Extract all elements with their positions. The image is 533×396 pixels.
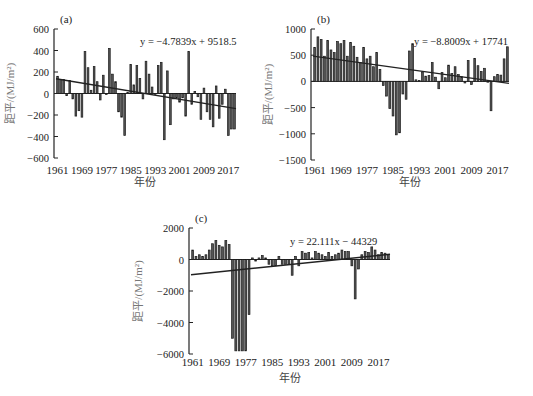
bar [359, 63, 361, 82]
bar [321, 255, 323, 260]
bar [148, 74, 150, 93]
y-axis-title: 距平/(MJ/m²) [4, 62, 17, 124]
bar [334, 255, 336, 260]
x-tick-label: 2009 [193, 164, 216, 176]
bar [371, 247, 373, 260]
chart-panel-a: 6004002000−200−400−600196119691977198519… [0, 0, 270, 190]
y-tick-label: −1500 [279, 155, 306, 166]
bar [179, 94, 181, 103]
x-tick-label: 1993 [288, 356, 311, 368]
y-tick-label: 400 [33, 46, 49, 57]
bar [90, 90, 92, 93]
bar [438, 81, 440, 88]
bar [228, 94, 230, 136]
bar [428, 76, 430, 82]
bar [215, 86, 217, 94]
y-tick-label: −600 [27, 153, 49, 164]
bar [364, 252, 366, 260]
bar [136, 66, 138, 94]
bar [241, 260, 243, 351]
bar [327, 41, 329, 82]
x-tick-label: 1969 [71, 164, 94, 176]
bar [115, 82, 117, 94]
bar [202, 256, 204, 259]
bar [188, 52, 190, 94]
bar [195, 256, 197, 259]
bar [261, 256, 263, 260]
bar [63, 80, 65, 94]
bar [405, 81, 407, 99]
bar [228, 245, 230, 260]
bar [221, 94, 223, 105]
x-tick-label: 2009 [460, 164, 483, 176]
bar [248, 260, 250, 315]
bar [203, 88, 205, 93]
bar [454, 67, 456, 82]
bar [198, 255, 200, 260]
bar [490, 81, 492, 110]
bar [118, 94, 120, 112]
bar [151, 87, 153, 93]
bar [234, 94, 236, 129]
bar [374, 250, 376, 259]
bar [93, 67, 95, 94]
y-axis-title: 距平/(MJ/m²) [262, 63, 275, 125]
bar [392, 81, 394, 116]
bar [317, 37, 319, 82]
bar-chart-c: 20000−2000−4000−600019611969197719851993… [130, 198, 410, 396]
bar [191, 94, 193, 105]
bar [72, 94, 74, 99]
bar [60, 80, 62, 94]
bar [235, 260, 237, 351]
bar [285, 260, 287, 265]
x-tick-label: 1969 [208, 356, 231, 368]
bar [124, 94, 126, 136]
bar [212, 94, 214, 127]
bar [84, 52, 86, 94]
y-tick-label: 200 [33, 67, 49, 78]
bar [268, 260, 270, 265]
chart-panel-b: 10005000−500−1000−1500196119691977198519… [262, 0, 533, 190]
bar [197, 94, 199, 97]
bar [176, 94, 178, 98]
bar [373, 67, 375, 82]
bar [102, 75, 104, 93]
y-tick-label: 1000 [285, 24, 306, 35]
bar [386, 81, 388, 96]
bar [130, 64, 132, 93]
x-tick-label: 1977 [95, 164, 118, 176]
x-tick-label: 2017 [217, 164, 240, 176]
bar [69, 81, 71, 94]
x-tick-label: 1985 [261, 356, 284, 368]
bar [288, 260, 290, 265]
bar [200, 94, 202, 120]
panel-label: (a) [60, 13, 73, 26]
bar [324, 256, 326, 259]
bar [387, 255, 389, 260]
bar [448, 65, 450, 81]
bar [354, 260, 356, 299]
bar-chart-b: 10005000−500−1000−1500196119691977198519… [262, 0, 533, 190]
bar [338, 253, 340, 259]
bar [379, 69, 381, 81]
bar [99, 94, 101, 100]
bar [346, 56, 348, 81]
bar [271, 260, 273, 266]
bar [363, 47, 365, 81]
bar [96, 82, 98, 94]
bar [395, 81, 397, 134]
bar [506, 47, 508, 82]
x-tick-label: 1961 [182, 356, 204, 368]
y-tick-label: 0 [44, 89, 49, 100]
trend-equation: y = 22.111x − 44329 [290, 236, 377, 247]
bar [311, 258, 313, 260]
y-tick-label: −200 [27, 110, 49, 121]
panel-label: (b) [317, 13, 330, 26]
x-tick-label: 1993 [408, 164, 431, 176]
bar [298, 260, 300, 266]
bar [330, 50, 332, 81]
bar [192, 250, 194, 259]
x-axis-title: 年份 [399, 175, 421, 188]
chart-panel-c: 20000−2000−4000−600019611969197719851993… [130, 198, 410, 396]
bar [265, 258, 267, 260]
